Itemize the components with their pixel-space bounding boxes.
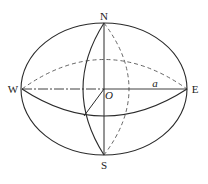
label-east: E <box>192 83 199 95</box>
diagram-canvas: N S W E O a <box>0 0 208 184</box>
label-semi-axis: a <box>152 77 158 89</box>
label-west: W <box>8 83 19 95</box>
radius-line <box>84 89 104 116</box>
label-center: O <box>105 89 113 101</box>
label-south: S <box>101 159 107 171</box>
ellipsoid-diagram: N S W E O a <box>0 0 208 184</box>
label-north: N <box>100 10 108 22</box>
